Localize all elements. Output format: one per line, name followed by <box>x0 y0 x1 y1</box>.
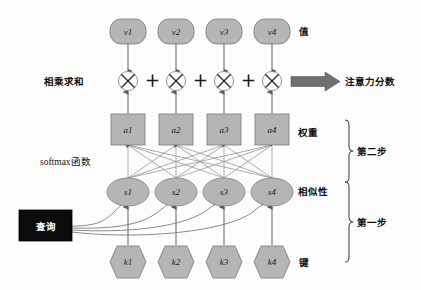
weight-node-a4[interactable]: a4 <box>255 114 289 145</box>
step-one-bracket <box>345 182 354 262</box>
similarity-node-s2[interactable]: s2 <box>155 178 197 206</box>
edges-value-to-multiply <box>128 44 272 71</box>
weight-node-a2[interactable]: a2 <box>159 114 193 145</box>
weight-row: a1 a2 a3 a4 权重 <box>111 114 318 145</box>
step-two-label: 第二步 <box>357 146 387 157</box>
multiply-row-label: 相乘求和 <box>44 76 84 87</box>
multiply-node-1[interactable] <box>119 72 138 91</box>
query-box-label: 查询 <box>35 221 56 232</box>
similarity-row: s1 s2 s3 s4 相似性 <box>107 178 328 206</box>
edges-key-to-similarity <box>128 207 272 245</box>
key-node-label: k3 <box>220 257 229 267</box>
weight-node-a3[interactable]: a3 <box>207 114 241 145</box>
key-node-label: k4 <box>268 257 277 267</box>
similarity-node-label: s3 <box>220 187 229 197</box>
weight-node-label: a1 <box>124 125 133 135</box>
value-node-v4[interactable]: v4 <box>254 19 290 44</box>
key-node-label: k1 <box>124 257 133 267</box>
similarity-node-label: s4 <box>268 187 277 197</box>
multiply-node-3[interactable] <box>215 72 234 91</box>
softmax-label: softmax函数 <box>40 156 91 167</box>
plus-separator-1: ＋ <box>145 72 160 90</box>
similarity-node-label: s1 <box>124 187 132 197</box>
key-node-k3[interactable]: k3 <box>206 246 242 278</box>
similarity-node-label: s2 <box>172 187 181 197</box>
similarity-row-label: 相似性 <box>298 186 328 197</box>
value-node-label: v1 <box>124 27 133 37</box>
output-arrow: 注意力分数 <box>291 72 395 91</box>
multiply-row: 相乘求和 ＋ ＋ ＋ <box>44 72 282 91</box>
attention-score-arrow-icon <box>291 72 340 91</box>
step-two-bracket <box>345 120 354 182</box>
weight-node-label: a3 <box>220 125 230 135</box>
key-node-k1[interactable]: k1 <box>110 246 146 278</box>
step-one-bracket-group: 第一步 <box>345 182 387 262</box>
weight-node-a1[interactable]: a1 <box>111 114 145 145</box>
query-box[interactable]: 查询 <box>19 210 72 241</box>
value-row-label: 值 <box>299 26 309 37</box>
plus-separator-2: ＋ <box>193 72 208 90</box>
value-node-v1[interactable]: v1 <box>110 19 146 44</box>
weight-node-label: a4 <box>268 125 278 135</box>
value-node-v2[interactable]: v2 <box>158 19 194 44</box>
edges-similarity-to-weight <box>128 145 272 178</box>
value-node-label: v2 <box>172 27 181 37</box>
value-node-label: v3 <box>220 27 229 37</box>
weight-node-label: a2 <box>172 125 182 135</box>
diagram-canvas: v1 v2 v3 v4 值 相乘求和 ＋ <box>0 0 421 290</box>
key-row: k1 k2 k3 k4 键 <box>110 246 309 278</box>
attention-diagram: v1 v2 v3 v4 值 相乘求和 ＋ <box>0 0 421 290</box>
similarity-node-s4[interactable]: s4 <box>251 178 293 206</box>
key-node-k2[interactable]: k2 <box>158 246 194 278</box>
value-node-v3[interactable]: v3 <box>206 19 242 44</box>
key-node-label: k2 <box>172 257 181 267</box>
edges-weight-to-multiply <box>128 92 272 114</box>
similarity-node-s1[interactable]: s1 <box>107 178 149 206</box>
multiply-node-2[interactable] <box>167 72 186 91</box>
step-two-bracket-group: 第二步 <box>345 120 387 182</box>
value-row: v1 v2 v3 v4 值 <box>110 19 309 44</box>
similarity-node-s3[interactable]: s3 <box>203 178 245 206</box>
plus-separator-3: ＋ <box>241 72 256 90</box>
multiply-node-4[interactable] <box>263 72 282 91</box>
value-node-label: v4 <box>268 27 277 37</box>
edges-query-to-similarity <box>72 203 267 235</box>
step-one-label: 第一步 <box>357 217 387 228</box>
output-label: 注意力分数 <box>345 76 395 87</box>
key-row-label: 键 <box>298 257 309 268</box>
key-node-k4[interactable]: k4 <box>254 246 290 278</box>
weight-row-label: 权重 <box>297 127 318 138</box>
